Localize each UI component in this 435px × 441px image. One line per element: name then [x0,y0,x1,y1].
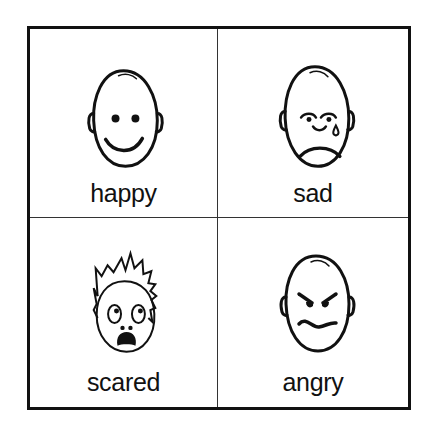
emotions-grid: happy sad [27,26,411,410]
card-happy[interactable]: happy [30,29,218,218]
card-label: sad [218,179,408,208]
card-label: angry [218,368,408,397]
card-sad[interactable]: sad [218,29,408,218]
card-scared[interactable]: scared [30,218,218,407]
card-label: scared [30,368,217,397]
card-label: happy [30,179,217,208]
card-angry[interactable]: angry [218,218,408,407]
